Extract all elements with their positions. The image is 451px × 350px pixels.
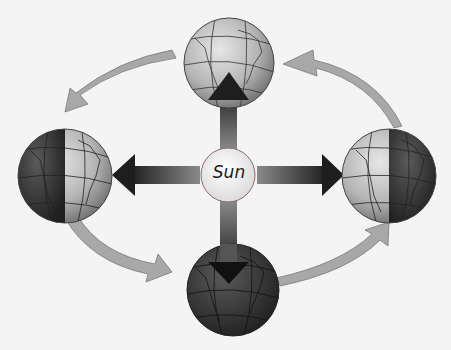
sunlight-arrow-left: [112, 154, 200, 196]
orbit-arrow-bottom-to-right: [276, 222, 389, 286]
orbit-arrow-top-to-left: [65, 50, 176, 112]
earth-globe-left: [18, 128, 112, 224]
earth-globe-top: [184, 18, 274, 108]
orbit-arrow-left-to-bottom: [65, 215, 172, 282]
orbit-arrow-right-to-top: [283, 50, 402, 128]
earth-globe-right: [342, 128, 437, 224]
sun-label: Sun: [201, 162, 257, 182]
sunlight-arrow-right: [257, 154, 344, 196]
earth-globe-bottom: [187, 244, 279, 336]
earth-orbit-diagram: Sun: [0, 0, 451, 350]
